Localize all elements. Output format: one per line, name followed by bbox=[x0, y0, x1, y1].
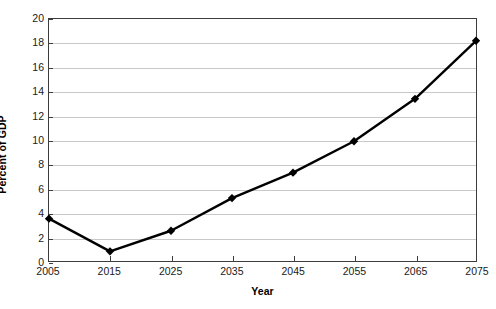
data-series-layer bbox=[49, 19, 476, 261]
y-axis-tick-label: 16 bbox=[32, 62, 44, 73]
y-axis-tick-mark bbox=[49, 141, 53, 142]
x-axis-tick-mark bbox=[355, 256, 356, 261]
y-axis-tick-label: 2 bbox=[38, 232, 44, 243]
y-axis-tick-mark bbox=[49, 68, 53, 69]
gridline bbox=[49, 263, 476, 264]
x-axis-tick-mark bbox=[417, 256, 418, 261]
y-axis-tick-mark bbox=[49, 43, 53, 44]
y-axis-tick-mark bbox=[49, 263, 53, 264]
y-axis-tick-mark bbox=[49, 214, 53, 215]
y-axis-tick-label: 6 bbox=[38, 184, 44, 195]
y-axis-tick-mark bbox=[49, 19, 53, 20]
y-axis-tick-mark bbox=[49, 190, 53, 191]
x-axis-tick-label: 2005 bbox=[36, 266, 59, 277]
y-axis-tick-label: 8 bbox=[38, 159, 44, 170]
x-axis-tick-label: 2035 bbox=[220, 266, 243, 277]
y-axis-tick-label: 14 bbox=[32, 86, 44, 97]
y-axis-tick-mark bbox=[49, 239, 53, 240]
plot-area bbox=[48, 18, 477, 262]
x-axis-tick-label: 2075 bbox=[465, 266, 488, 277]
y-axis-tick-mark bbox=[49, 165, 53, 166]
y-axis-tick-label: 10 bbox=[32, 135, 44, 146]
x-axis-tick-mark bbox=[294, 256, 295, 261]
x-axis-tick-mark bbox=[110, 256, 111, 261]
x-axis-tick-label: 2015 bbox=[98, 266, 121, 277]
data-point-marker bbox=[289, 169, 297, 177]
x-axis-tick-labels: 20052015202520352045205520652075 bbox=[48, 266, 477, 282]
y-axis-tick-label: 20 bbox=[32, 13, 44, 24]
x-axis-tick-label: 2065 bbox=[404, 266, 427, 277]
x-axis-tick-label: 2055 bbox=[343, 266, 366, 277]
y-axis-tick-label: 4 bbox=[38, 208, 44, 219]
series-line bbox=[49, 41, 476, 252]
x-axis-tick-mark bbox=[172, 256, 173, 261]
x-axis-tick-mark bbox=[233, 256, 234, 261]
y-axis-tick-mark bbox=[49, 92, 53, 93]
x-axis-title: Year bbox=[48, 285, 477, 297]
y-axis-tick-mark bbox=[49, 117, 53, 118]
x-axis-tick-label: 2045 bbox=[281, 266, 304, 277]
y-axis-tick-label: 12 bbox=[32, 110, 44, 121]
y-axis-tick-labels: 02468101214161820 bbox=[20, 18, 44, 262]
x-axis-tick-label: 2025 bbox=[159, 266, 182, 277]
line-chart: Percent of GDP 02468101214161820 2005201… bbox=[0, 0, 496, 309]
y-axis-tick-label: 18 bbox=[32, 37, 44, 48]
